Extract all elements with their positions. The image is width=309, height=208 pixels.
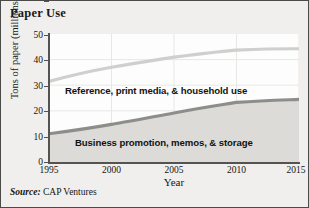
y-tick-30	[44, 86, 49, 87]
x-tick-label-2005: 2005	[152, 165, 196, 175]
y-tick-50	[44, 35, 49, 36]
y-tick-label-10: 10	[3, 132, 43, 142]
y-tick-label-40: 40	[3, 55, 43, 65]
y-tick-spacer	[44, 1, 49, 2]
x-tick-label-1995: 1995	[27, 165, 71, 175]
y-axis-line	[48, 33, 50, 163]
source-note: Source: CAP Ventures	[10, 187, 97, 197]
y-tick-label-30: 30	[3, 81, 43, 91]
source-value: CAP Ventures	[41, 187, 97, 197]
y-tick-40	[44, 60, 49, 61]
y-tick-label-50: 50	[3, 30, 43, 40]
x-tick-label-2000: 2000	[90, 165, 134, 175]
y-tick-10	[44, 137, 49, 138]
chart-figure: Paper Use Tons of paper (millions)	[0, 0, 309, 208]
source-label: Source:	[10, 187, 41, 197]
y-tick-label-20: 20	[3, 106, 43, 116]
series-caption-business: Business promotion, memos, & storage	[75, 137, 253, 148]
series-caption-reference: Reference, print media, & household use	[65, 85, 247, 96]
y-tick-20	[44, 111, 49, 112]
x-axis-line	[48, 162, 300, 164]
x-tick-label-2015: 2015	[274, 165, 309, 175]
y-tick-0	[44, 162, 49, 163]
x-tick-label-2010: 2010	[215, 165, 259, 175]
